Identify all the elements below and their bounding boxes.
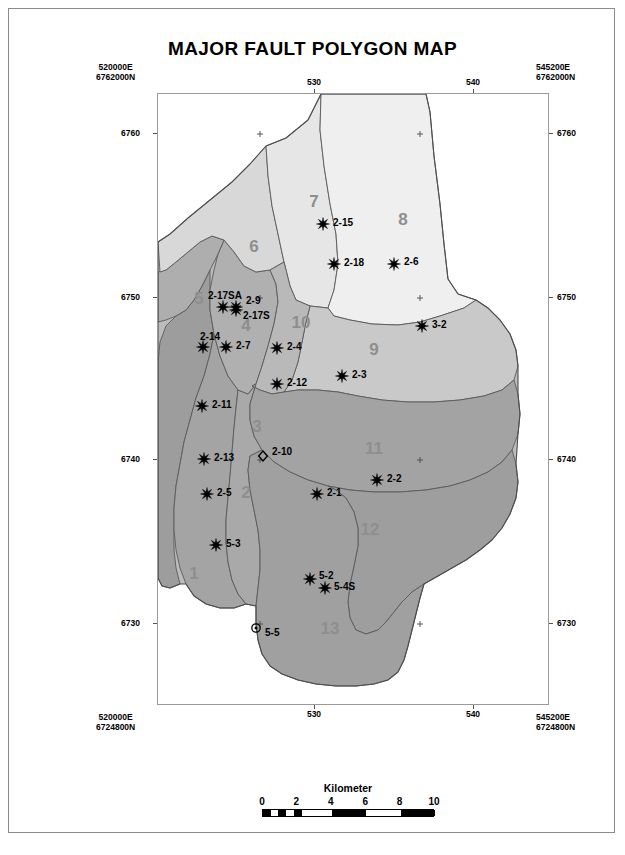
scale-bar-segment: [332, 810, 366, 816]
well-label-2-7: 2-7: [236, 340, 251, 351]
corner-coordinate-top-left: 520000E 6762000N: [96, 62, 135, 82]
fault-polygon-map[interactable]: 2-152-182-63-22-17SA2-92-17S2-142-72-42-…: [158, 94, 548, 704]
polygon-number-1: 1: [189, 564, 198, 583]
star-icon: [270, 377, 283, 390]
scale-bar-label-2: 2: [294, 796, 300, 807]
scale-bar-label-0: 0: [259, 796, 265, 807]
corner-coordinate-bottom-right: 545200E 6724800N: [536, 712, 575, 732]
polygon-number-11: 11: [365, 439, 383, 458]
scale-bar-label-6: 6: [362, 796, 368, 807]
map-canvas[interactable]: 2-152-182-63-22-17SA2-92-17S2-142-72-42-…: [157, 93, 549, 705]
polygon-number-9: 9: [369, 340, 378, 359]
polygon-number-6: 6: [249, 237, 258, 256]
x-axis-tick-top-540: 540: [466, 77, 480, 87]
circle-dot-icon: [255, 627, 258, 630]
star-icon: [216, 300, 229, 313]
polygon-number-12: 12: [361, 520, 380, 539]
scale-bar-label-4: 4: [328, 796, 334, 807]
y-axis-tick-left-6760: 6760: [121, 128, 140, 138]
polygon-layer: [158, 94, 520, 686]
polygon-number-4: 4: [241, 316, 251, 335]
corner-br-easting: 545200E: [536, 712, 575, 722]
well-label-2-18: 2-18: [344, 257, 364, 268]
polygon-number-2: 2: [241, 483, 250, 502]
well-label-2-15: 2-15: [333, 217, 353, 228]
grid-cross-icon: [417, 621, 423, 627]
scale-bar-label-10: 10: [428, 796, 439, 807]
star-icon: [197, 452, 210, 465]
star-icon: [209, 538, 222, 551]
corner-coordinate-bottom-left: 520000E 6724800N: [96, 712, 135, 732]
polygon-number-7: 7: [309, 192, 318, 211]
scale-bar-labels: 0246810: [262, 796, 434, 808]
scale-bar-graphic: [262, 809, 434, 817]
y-axis-tick-left-6730: 6730: [121, 618, 140, 628]
scale-bar-segment: [263, 810, 271, 816]
star-icon: [219, 340, 232, 353]
scale-bar-segment: [294, 810, 302, 816]
x-axis-tick-bottom-530: 530: [307, 709, 321, 719]
well-label-2-12: 2-12: [287, 377, 307, 388]
corner-tl-easting: 520000E: [96, 62, 135, 72]
star-icon: [415, 319, 428, 332]
polygon-number-13: 13: [321, 619, 340, 638]
corner-tl-northing: 6762000N: [96, 72, 135, 82]
star-icon: [270, 341, 283, 354]
star-icon: [316, 217, 329, 230]
page-title: MAJOR FAULT POLYGON MAP: [0, 38, 625, 60]
star-icon: [303, 572, 316, 585]
well-label-2-11: 2-11: [212, 399, 232, 410]
scale-bar-label-8: 8: [397, 796, 403, 807]
well-label-2-17SA: 2-17SA: [208, 290, 242, 301]
polygon-number-10: 10: [292, 313, 311, 332]
well-label-5-2: 5-2: [319, 570, 334, 581]
y-axis-tick-right-6750: 6750: [557, 292, 576, 302]
well-label-5-3: 5-3: [226, 538, 241, 549]
star-icon: [310, 487, 323, 500]
scale-bar-segment: [401, 810, 435, 816]
star-icon: [370, 473, 383, 486]
polygon-number-8: 8: [398, 210, 407, 229]
well-label-2-9: 2-9: [246, 295, 261, 306]
well-label-2-10: 2-10: [272, 446, 292, 457]
star-icon: [196, 340, 209, 353]
star-icon: [335, 369, 348, 382]
star-icon: [195, 399, 208, 412]
y-axis-tick-left-6740: 6740: [121, 454, 140, 464]
star-icon: [387, 257, 400, 270]
corner-bl-northing: 6724800N: [96, 722, 135, 732]
well-label-2-2: 2-2: [387, 473, 402, 484]
x-axis-tick-top-530: 530: [307, 77, 321, 87]
corner-tr-easting: 545200E: [536, 62, 575, 72]
scale-bar: Kilometer 0246810: [262, 782, 434, 817]
star-icon: [318, 581, 331, 594]
polygon-number-3: 3: [252, 417, 261, 436]
well-label-2-6: 2-6: [404, 256, 419, 267]
corner-br-northing: 6724800N: [536, 722, 575, 732]
y-axis-tick-right-6730: 6730: [557, 618, 576, 628]
well-label-2-3: 2-3: [352, 369, 367, 380]
corner-bl-easting: 520000E: [96, 712, 135, 722]
well-label-2-4: 2-4: [287, 341, 302, 352]
well-label-3-2: 3-2: [432, 319, 447, 330]
well-label-2-14: 2-14: [200, 331, 220, 342]
star-icon: [200, 487, 213, 500]
y-axis-tick-right-6760: 6760: [557, 128, 576, 138]
well-label-2-5: 2-5: [217, 487, 232, 498]
well-label-5-4S: 5-4S: [334, 581, 355, 592]
y-axis-tick-right-6740: 6740: [557, 454, 576, 464]
polygon-number-5: 5: [194, 289, 203, 308]
star-icon: [327, 257, 340, 270]
well-label-5-5: 5-5: [265, 627, 280, 638]
corner-coordinate-top-right: 545200E 6762000N: [536, 62, 575, 82]
corner-tr-northing: 6762000N: [536, 72, 575, 82]
well-label-2-1: 2-1: [327, 487, 342, 498]
y-axis-tick-left-6750: 6750: [121, 292, 140, 302]
scale-bar-title: Kilometer: [262, 782, 434, 794]
star-icon: [229, 303, 242, 316]
scale-bar-segment: [278, 810, 286, 816]
x-axis-tick-bottom-540: 540: [466, 709, 480, 719]
grid-cross-icon: [257, 131, 263, 137]
well-label-2-13: 2-13: [214, 452, 234, 463]
